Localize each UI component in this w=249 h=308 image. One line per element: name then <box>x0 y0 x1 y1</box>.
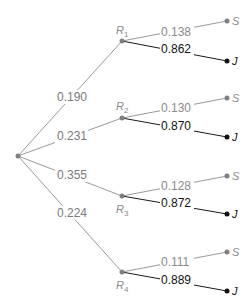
probability-tree-diagram: 0.190 0.231 0.355 0.224 0.138 0.862 0.13… <box>0 0 249 308</box>
root-node <box>16 154 21 159</box>
nodes <box>16 19 230 294</box>
leaf-label-r4-j: J <box>231 285 238 297</box>
leaf-label-r1-s: S <box>232 15 240 27</box>
leaf-label-r3-j: J <box>231 208 238 220</box>
prob-r2: 0.231 <box>57 129 87 143</box>
node-r1 <box>120 39 125 44</box>
leaf-label-r3-s: S <box>232 170 240 182</box>
node-r3 <box>120 194 125 199</box>
prob-r1: 0.190 <box>57 90 87 104</box>
prob-r4: 0.224 <box>57 206 87 220</box>
prob-r1-s: 0.138 <box>161 25 191 39</box>
label-r1: R1 <box>116 24 129 39</box>
label-r2: R2 <box>116 100 129 115</box>
leaf-r2-s <box>225 96 230 101</box>
prob-r1-j: 0.862 <box>161 42 191 56</box>
node-r4 <box>120 270 125 275</box>
leaf-label-r2-s: S <box>232 92 240 104</box>
second-level-probabilities: 0.138 0.862 0.130 0.870 0.128 0.872 0.11… <box>160 25 194 287</box>
prob-r3-j: 0.872 <box>161 196 191 210</box>
label-r4: R4 <box>116 279 129 294</box>
leaf-r1-s <box>225 19 230 24</box>
leaf-labels: S J S J S J S J <box>231 15 240 297</box>
prob-r4-j: 0.889 <box>161 273 191 287</box>
r-node-labels: R1 R2 R3 R4 <box>116 24 129 294</box>
label-r3: R3 <box>116 203 129 218</box>
prob-r2-j: 0.870 <box>161 119 191 133</box>
leaf-label-r2-j: J <box>231 131 238 143</box>
prob-r3-s: 0.128 <box>161 179 191 193</box>
second-level-edges <box>122 21 227 291</box>
leaf-r3-j <box>225 212 230 217</box>
leaf-r4-s <box>225 250 230 255</box>
leaf-r1-j <box>225 59 230 64</box>
prob-r2-s: 0.130 <box>161 101 191 115</box>
prob-r3: 0.355 <box>57 168 87 182</box>
leaf-label-r4-s: S <box>232 246 240 258</box>
node-r2 <box>120 116 125 121</box>
leaf-r2-j <box>225 135 230 140</box>
leaf-label-r1-j: J <box>231 55 238 67</box>
leaf-r3-s <box>225 174 230 179</box>
prob-r4-s: 0.111 <box>161 255 190 269</box>
first-level-edges <box>18 41 122 272</box>
leaf-r4-j <box>225 289 230 294</box>
